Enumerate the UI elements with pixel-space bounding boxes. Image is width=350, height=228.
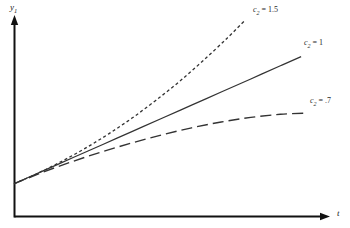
- series-label-equals: =: [319, 96, 324, 105]
- x-axis-arrowhead: [320, 213, 330, 220]
- series-label-c2-1.5: c2 = 1.5: [253, 6, 278, 16]
- series-label-c2-0.7: c2 = .7: [310, 97, 331, 107]
- series-label-subscript: 2: [308, 43, 311, 49]
- figure-chart-c2-trajectories: y1 t c2 = 1.5 c2 = 1 c2 = .7: [0, 0, 350, 228]
- series-label-equals: =: [262, 5, 267, 14]
- x-axis-label-var: t: [337, 208, 340, 218]
- y-axis-arrowhead: [11, 15, 18, 25]
- curve-c2-1.5: [14, 20, 245, 183]
- series-label-subscript: 2: [314, 101, 317, 107]
- series-label-c2-1: c2 = 1: [304, 39, 323, 49]
- curve-c2-1: [14, 57, 301, 184]
- x-axis-label: t: [337, 209, 340, 218]
- curve-c2-0.7: [14, 113, 307, 184]
- series-label-value: 1: [319, 38, 323, 47]
- series-label-value: 1.5: [268, 5, 278, 14]
- series-label-equals: =: [313, 38, 318, 47]
- plot-canvas: [0, 0, 350, 228]
- axes-group: [11, 15, 330, 220]
- series-label-value: .7: [325, 96, 331, 105]
- series-label-subscript: 2: [257, 10, 260, 16]
- y-axis-label: y1: [10, 3, 17, 14]
- series-group: [14, 20, 307, 183]
- y-axis-label-subscript: 1: [14, 7, 17, 14]
